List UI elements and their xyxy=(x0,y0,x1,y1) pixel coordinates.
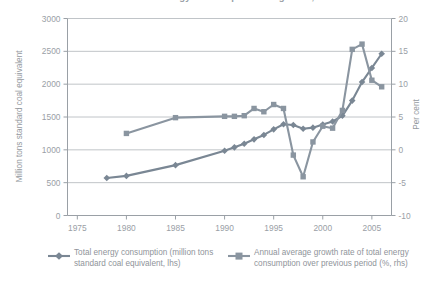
y-axis-left-tick-label: 1000 xyxy=(42,145,61,155)
y-axis-left-tick-label: 2500 xyxy=(42,46,61,56)
x-axis-tick-label: 1980 xyxy=(117,223,136,233)
y-axis-right-tick-label: 15 xyxy=(399,46,409,56)
data-point-growth xyxy=(261,109,266,114)
data-point-growth xyxy=(379,84,384,89)
data-point-growth xyxy=(281,106,286,111)
data-point-consumption xyxy=(290,122,297,129)
x-axis-tick-label: 2005 xyxy=(363,223,382,233)
x-axis-tick-label: 2000 xyxy=(313,223,332,233)
data-point-growth xyxy=(320,123,325,128)
data-point-growth xyxy=(242,113,247,118)
data-point-growth xyxy=(271,102,276,107)
y-axis-left-tick-label: 2000 xyxy=(42,79,61,89)
y-axis-right-tick-label: 0 xyxy=(399,145,404,155)
data-point-consumption xyxy=(172,162,179,169)
data-point-growth xyxy=(310,139,315,144)
legend-label-growth: Annual average growth rate of total ener… xyxy=(254,248,428,269)
data-point-consumption xyxy=(300,125,307,132)
data-point-consumption xyxy=(103,175,110,182)
data-point-growth xyxy=(124,131,129,136)
data-point-consumption xyxy=(221,147,228,154)
data-point-growth xyxy=(222,114,227,119)
data-point-growth xyxy=(359,41,364,46)
data-point-growth xyxy=(300,174,305,179)
chart-figure: Chart 1: Total energy consumption and gr… xyxy=(0,0,437,285)
data-point-growth xyxy=(369,78,374,83)
data-point-growth xyxy=(251,106,256,111)
data-point-consumption xyxy=(241,140,248,147)
legend-label-consumption: Total energy consumption (million tons s… xyxy=(74,248,223,269)
y-axis-right-tick-label: 10 xyxy=(399,79,409,89)
x-axis-tick-label: 1995 xyxy=(264,223,283,233)
data-point-growth xyxy=(350,47,355,52)
data-point-growth xyxy=(291,152,296,157)
data-point-growth xyxy=(330,125,335,130)
plot-area: 050010001500200025003000-10-505101520197… xyxy=(0,0,437,285)
x-axis-tick-label: 1990 xyxy=(215,223,234,233)
data-point-growth xyxy=(340,108,345,113)
diamond-marker xyxy=(48,252,70,260)
y-axis-right-tick-label: 20 xyxy=(399,14,409,24)
data-point-growth xyxy=(232,114,237,119)
y-axis-left-tick-label: 0 xyxy=(56,211,61,221)
data-point-consumption xyxy=(123,173,130,180)
x-axis-tick-label: 1985 xyxy=(166,223,185,233)
data-point-consumption xyxy=(251,136,258,143)
data-point-growth xyxy=(173,115,178,120)
y-axis-left-tick-label: 3000 xyxy=(42,14,61,24)
data-point-consumption xyxy=(310,124,317,131)
y-axis-right-tick-label: -10 xyxy=(399,211,411,221)
square-marker xyxy=(228,252,250,260)
y-axis-right-tick-label: -5 xyxy=(399,178,407,188)
y-axis-left-tick-label: 1500 xyxy=(42,112,61,122)
x-axis-tick-label: 1975 xyxy=(68,223,87,233)
y-axis-right-tick-label: 5 xyxy=(399,112,404,122)
y-axis-left-tick-label: 500 xyxy=(47,178,61,188)
